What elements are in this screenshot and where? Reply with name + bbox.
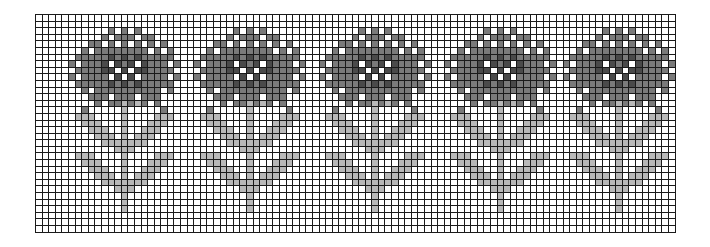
grid-cell-stem [498,114,504,120]
grid-cell-empty [326,186,332,192]
grid-cell-empty [168,101,174,107]
grid-cell-empty [188,173,194,179]
grid-cell-flower-center [517,68,523,74]
grid-cell-empty [82,173,88,179]
grid-cell-empty [550,121,556,127]
grid-cell-empty [174,35,180,41]
grid-cell-empty [254,213,260,219]
grid-cell-empty [62,186,68,192]
grid-cell-empty [570,167,576,173]
grid-cell-empty [62,167,68,173]
grid-cell-empty [260,206,266,212]
grid-cell-stem [392,173,398,179]
grid-cell-empty [570,147,576,153]
grid-cell-empty [359,107,365,113]
grid-cell-stem [570,153,576,159]
grid-cell-empty [366,121,372,127]
grid-cell-empty [260,74,266,80]
grid-cell-stem [385,180,391,186]
grid-cell-empty [254,200,260,206]
grid-cell-empty [432,180,438,186]
grid-cell-petal [643,68,649,74]
grid-cell-empty [353,107,359,113]
grid-cell-stem [359,173,365,179]
grid-cell-empty [102,226,108,232]
grid-cell-empty [300,15,306,21]
grid-cell-empty [287,48,293,54]
grid-cell-petal [590,74,596,80]
grid-cell-empty [537,101,543,107]
grid-cell-empty [353,28,359,34]
grid-cell-petal [267,81,273,87]
grid-cell-petal [168,55,174,61]
grid-cell-stem [649,160,655,166]
grid-cell-petal [115,55,121,61]
grid-cell-empty [247,22,253,28]
grid-cell-empty [181,101,187,107]
grid-cell-empty [89,200,95,206]
grid-cell-empty [550,226,556,232]
grid-cell-empty [346,15,352,21]
grid-cell-empty [544,101,550,107]
grid-cell-petal [254,55,260,61]
grid-cell-empty [240,173,246,179]
grid-cell-empty [550,200,556,206]
grid-cell-petal [273,94,279,100]
grid-cell-stem [418,153,424,159]
grid-cell-empty [425,121,431,127]
grid-cell-empty [69,219,75,225]
grid-cell-empty [610,107,616,113]
grid-cell-stem [610,147,616,153]
grid-cell-empty [669,226,675,232]
grid-cell-stem [135,134,141,140]
grid-cell-petal [517,55,523,61]
grid-cell-empty [168,121,174,127]
grid-cell-petal [465,61,471,67]
grid-cell-stem [577,153,583,159]
grid-cell-empty [346,200,352,206]
grid-cell-empty [583,140,589,146]
grid-cell-empty [62,114,68,120]
grid-cell-stem [583,153,589,159]
grid-cell-petal [656,41,662,47]
grid-cell-petal [221,48,227,54]
grid-cell-empty [372,22,378,28]
grid-cell-empty [69,101,75,107]
grid-cell-empty [287,167,293,173]
grid-cell-empty [537,173,543,179]
grid-cell-empty [649,28,655,34]
grid-cell-flower-center [478,61,484,67]
grid-cell-empty [89,134,95,140]
grid-cell-empty [465,28,471,34]
grid-cell-stem [247,193,253,199]
grid-cell-empty [313,173,319,179]
grid-cell-empty [76,193,82,199]
grid-cell-empty [564,200,570,206]
grid-cell-empty [194,35,200,41]
grid-cell-petal [471,41,477,47]
grid-cell-empty [656,213,662,219]
grid-cell-empty [564,101,570,107]
grid-cell-petal [583,61,589,67]
grid-cell-stem [511,180,517,186]
grid-cell-empty [399,28,405,34]
grid-cell-petal [656,74,662,80]
grid-cell-stem [616,193,622,199]
grid-cell-stem [234,140,240,146]
grid-cell-empty [557,22,563,28]
grid-cell-flower-center [610,74,616,80]
grid-cell-empty [564,88,570,94]
grid-cell-stem [214,121,220,127]
grid-cell-empty [656,88,662,94]
grid-cell-empty [445,153,451,159]
grid-cell-empty [194,114,200,120]
grid-cell-empty [267,213,273,219]
grid-cell-empty [36,127,42,133]
grid-cell-empty [531,140,537,146]
grid-cell-petal [471,61,477,67]
grid-cell-petal [478,81,484,87]
grid-cell-empty [583,186,589,192]
grid-cell-petal [89,41,95,47]
grid-cell-stem [128,140,134,146]
grid-cell-empty [504,127,510,133]
